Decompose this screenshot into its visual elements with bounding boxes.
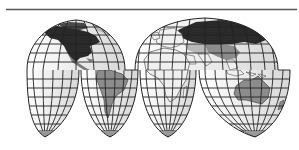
- lobe-north-eurasia-africa: [130, 18, 290, 70]
- lobe-north-americas: [20, 20, 130, 70]
- lobe-south-australia: [195, 70, 295, 137]
- lobe-south-america: [75, 66, 145, 137]
- lobe-south-pacific: [20, 70, 90, 137]
- world-map: [0, 0, 299, 150]
- lobe-south-africa: [135, 70, 200, 137]
